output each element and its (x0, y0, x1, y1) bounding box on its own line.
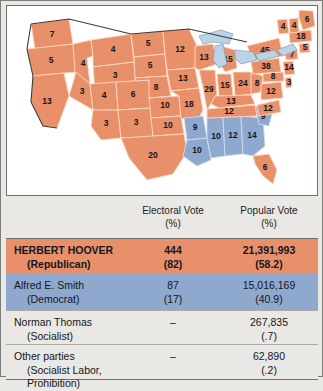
map-state-label-ID: 4 (81, 58, 86, 68)
table-row: Alfred E. Smith (Democrat) 87 (17) 15,01… (6, 274, 318, 310)
map-state-label-AL: 12 (228, 130, 238, 140)
electoral-value: – (128, 350, 218, 364)
electoral-pct-value: (82) (128, 258, 218, 272)
candidate-name: Alfred E. Smith (Democrat) (14, 279, 130, 306)
header-electoral-vote: Electoral Vote (%) (128, 204, 218, 230)
map-state-label-OH: 24 (238, 78, 248, 88)
map-state-MN: 12 (163, 29, 197, 70)
map-state-OR: 5 (27, 44, 76, 76)
map-state-label-DE: 3 (287, 77, 292, 87)
popular-pct-value: (40.9) (221, 293, 317, 307)
candidate-party: (Socialist) (14, 330, 130, 344)
popular-pct-value: (58.2) (221, 258, 317, 272)
map-state-label-RI: 5 (303, 42, 308, 52)
candidate-party: (Republican) (14, 258, 130, 272)
popular-pct-value: (.7) (221, 330, 317, 344)
table-row: Other parties (Socialist Labor, Prohibit… (6, 344, 318, 380)
map-state-label-OR: 5 (49, 55, 54, 65)
map-state-TN: 12 (207, 105, 257, 118)
map-state-AR: 9 (184, 116, 207, 140)
map-state-label-LA: 10 (192, 145, 202, 155)
map-state-label-VA: 12 (266, 86, 276, 96)
us-electoral-map-svg: 7 5 13 4 3 4 3 (7, 6, 317, 195)
map-state-label-NV: 3 (80, 86, 85, 96)
map-state-label-PA: 38 (261, 61, 271, 71)
map-state-label-CO: 6 (131, 89, 136, 99)
map-state-label-CA: 13 (42, 96, 52, 106)
map-state-label-TX: 20 (148, 150, 158, 160)
map-state-label-AR: 9 (193, 122, 198, 132)
candidate-party: (Democrat) (14, 293, 130, 307)
map-state-label-NM: 3 (134, 117, 139, 127)
map-state-UT: 4 (90, 82, 118, 110)
map-state-label-IA: 13 (178, 73, 188, 83)
map-state-DE: 3 (285, 77, 292, 88)
table-row: HERBERT HOOVER (Republican) 444 (82) 21,… (6, 238, 318, 274)
header-electoral-pct: (%) (128, 217, 218, 230)
map-state-NJ: 14 (283, 61, 295, 75)
map-state-AL: 12 (223, 116, 243, 156)
map-state-CA: 13 (31, 73, 69, 128)
map-state-OH: 24 (233, 72, 253, 96)
table-header-row: Electoral Vote (%) Popular Vote (%) (6, 200, 318, 238)
map-state-ND: 5 (131, 31, 165, 57)
map-state-label-TN: 12 (224, 106, 234, 116)
map-state-label-NH: 4 (292, 20, 297, 30)
popular-value: 267,835 (.7) (221, 316, 317, 343)
map-state-ME: 6 (299, 10, 315, 30)
map-state-label-KY: 13 (226, 96, 236, 106)
map-state-NC: 12 (257, 100, 281, 116)
map-state-label-UT: 4 (102, 90, 107, 100)
map-state-VT: 4 (277, 19, 289, 34)
map-state-label-GA: 14 (247, 130, 257, 140)
map-state-RI: 5 (299, 42, 310, 53)
header-popular-pct: (%) (221, 217, 317, 230)
map-state-MT: 4 (91, 34, 134, 67)
map-state-CO: 6 (116, 80, 151, 110)
map-state-AZ: 3 (91, 110, 121, 140)
popular-value: 15,016,169 (40.9) (221, 279, 317, 306)
map-state-MS: 10 (207, 117, 225, 158)
map-state-NM: 3 (118, 108, 153, 138)
map-state-label-VT: 4 (281, 21, 286, 31)
map-state-label-NC: 12 (263, 103, 273, 113)
map-state-label-MO: 18 (184, 99, 194, 109)
electoral-value: 444 (82) (128, 244, 218, 271)
map-state-label-ND: 5 (146, 38, 151, 48)
map-state-label-NE: 8 (154, 82, 159, 92)
header-popular-vote: Popular Vote (%) (221, 204, 317, 230)
map-state-label-MS: 10 (211, 131, 221, 141)
map-state-NH: 4 (289, 18, 299, 33)
map-state-label-MA: 18 (296, 31, 306, 41)
results-table: Electoral Vote (%) Popular Vote (%) HERB… (6, 200, 318, 373)
map-state-FL: 6 (253, 154, 277, 184)
candidate-name: HERBERT HOOVER (Republican) (14, 244, 130, 271)
map-state-label-NJ: 14 (284, 62, 294, 72)
popular-value: 21,391,993 (58.2) (221, 244, 317, 271)
map-state-label-IL: 29 (204, 84, 214, 94)
map-state-VA: 12 (261, 82, 283, 100)
map-state-IN: 15 (217, 74, 233, 96)
electoral-map-panel: 7 5 13 4 3 4 3 (6, 5, 318, 196)
map-state-label-FL: 6 (263, 162, 268, 172)
map-state-label-OK: 10 (163, 120, 173, 130)
map-state-label-WY: 3 (113, 70, 118, 80)
map-state-TX: 20 (121, 134, 187, 180)
map-state-SD: 5 (134, 54, 167, 78)
map-state-label-WA: 7 (50, 29, 55, 39)
map-state-label-WV: 8 (255, 78, 260, 88)
popular-value: 62,890 (.2) (221, 350, 317, 377)
table-row: Norman Thomas (Socialist) – 267,835 (.7) (6, 310, 318, 344)
map-state-label-MN: 12 (175, 44, 185, 54)
map-state-label-IN: 15 (220, 80, 230, 90)
electoral-pct-value: (17) (128, 293, 218, 307)
map-state-KS: 10 (149, 96, 181, 118)
map-state-label-WI: 13 (199, 52, 209, 62)
map-state-label-ME: 6 (305, 14, 310, 24)
popular-pct-value: (.2) (221, 364, 317, 378)
electoral-value: 87 (17) (128, 279, 218, 306)
map-state-IA: 13 (167, 68, 199, 91)
map-state-label-MT: 4 (111, 44, 116, 54)
candidate-name: Norman Thomas (Socialist) (14, 316, 130, 343)
